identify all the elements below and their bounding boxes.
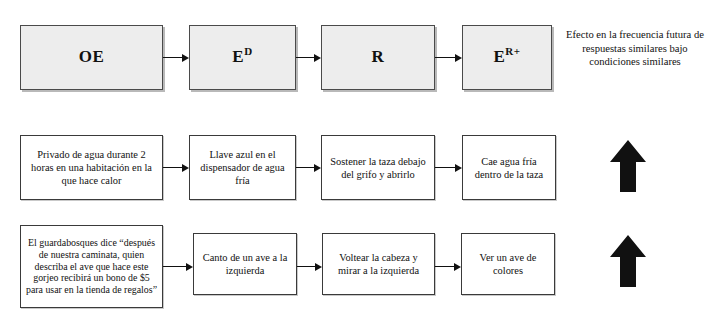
arrow-head (314, 164, 321, 172)
up-arrow-icon (608, 138, 648, 194)
diagram-canvas: OE ED R ER+ Efecto en la frecuencia futu… (0, 0, 708, 319)
example-box-bird-er-label: Ver un ave de colores (466, 251, 550, 277)
example-box-water-r: Sostener la taza debajo del grifo y abri… (321, 135, 435, 200)
up-arrow-icon-bird (608, 233, 648, 289)
model-box-ed: ED (189, 25, 296, 90)
arrow-head (454, 263, 461, 271)
example-box-bird-r: Voltear la cabeza y mirar a la izquierda (322, 233, 435, 295)
arrow-head (455, 54, 462, 62)
connector-arrow-ed-to-r (296, 53, 321, 62)
model-outcome-caption: Efecto en la frecuencia futura de respue… (562, 28, 708, 69)
arrow-shaft (296, 57, 315, 58)
arrow-shaft (297, 266, 316, 267)
example-box-bird-oe-label: El guardabosques dice “después de nuestr… (25, 237, 158, 296)
arrow-head (182, 54, 189, 62)
model-box-oe: OE (20, 25, 163, 90)
up-arrow-icon-water (608, 138, 648, 194)
arrow-shaft (163, 57, 183, 58)
connector-arrow-oe-to-ed (163, 53, 189, 62)
model-box-ed-label: ED (194, 47, 291, 67)
arrow-head (182, 164, 189, 172)
arrow-head (315, 263, 322, 271)
model-box-er-label: ER+ (467, 47, 547, 67)
arrow-shaft (163, 266, 187, 267)
example-box-water-er: Cae agua fría dentro de la taza (462, 135, 556, 200)
connector-arrow-water-r-to-er (435, 163, 462, 172)
model-box-r-label: R (326, 47, 430, 67)
connector-arrow-water-ed-to-r (296, 163, 321, 172)
connector-arrow-bird-r-to-er (435, 262, 461, 271)
arrow-shaft (163, 167, 183, 168)
example-box-water-er-label: Cae agua fría dentro de la taza (467, 155, 551, 181)
example-box-water-ed: Llave azul en el dispensador de agua frí… (189, 135, 296, 200)
connector-arrow-water-oe-to-ed (163, 163, 189, 172)
example-box-water-oe: Privado de agua durante 2 horas en una h… (20, 135, 163, 200)
model-box-oe-label: OE (25, 47, 158, 67)
arrow-head (314, 54, 321, 62)
up-arrow-icon (608, 233, 648, 289)
connector-arrow-bird-oe-to-ed (163, 262, 193, 271)
connector-arrow-r-to-er (435, 53, 462, 62)
example-box-bird-oe: El guardabosques dice “después de nuestr… (20, 225, 163, 308)
example-box-bird-r-label: Voltear la cabeza y mirar a la izquierda (327, 251, 430, 277)
arrow-head (186, 263, 193, 271)
arrow-shaft (435, 266, 455, 267)
example-box-water-ed-label: Llave azul en el dispensador de agua frí… (194, 148, 291, 187)
example-box-bird-ed: Canto de un ave a la izquierda (193, 233, 297, 295)
arrow-shaft (296, 167, 315, 168)
example-box-water-oe-label: Privado de agua durante 2 horas en una h… (25, 148, 158, 187)
model-box-er: ER+ (462, 25, 552, 90)
connector-arrow-bird-ed-to-r (297, 262, 322, 271)
example-box-bird-ed-label: Canto de un ave a la izquierda (198, 251, 292, 277)
example-box-water-r-label: Sostener la taza debajo del grifo y abri… (326, 155, 430, 181)
example-box-bird-er: Ver un ave de colores (461, 233, 555, 295)
model-box-r: R (321, 25, 435, 90)
arrow-head (455, 164, 462, 172)
arrow-shaft (435, 167, 456, 168)
arrow-shaft (435, 57, 456, 58)
